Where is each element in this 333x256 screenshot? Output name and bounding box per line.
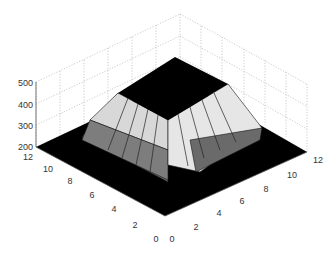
svg-text:12: 12 [313, 155, 323, 165]
svg-text:12: 12 [23, 152, 33, 162]
z-axis-ticks: 500 400 300 200 [18, 78, 33, 152]
svg-text:10: 10 [43, 164, 53, 174]
svg-text:6: 6 [89, 190, 94, 200]
svg-text:8: 8 [263, 184, 268, 194]
svg-text:2: 2 [132, 220, 137, 230]
surface-plot: 500 400 300 200 12 10 8 6 4 2 0 0 2 4 6 … [0, 0, 333, 256]
svg-text:10: 10 [287, 170, 297, 180]
svg-text:500: 500 [18, 78, 33, 88]
svg-text:8: 8 [67, 176, 72, 186]
svg-text:0: 0 [153, 234, 158, 244]
svg-text:400: 400 [18, 100, 33, 110]
svg-text:300: 300 [18, 121, 33, 131]
svg-text:4: 4 [111, 204, 116, 214]
svg-text:2: 2 [193, 222, 198, 232]
svg-text:6: 6 [239, 196, 244, 206]
svg-text:200: 200 [18, 142, 33, 152]
svg-text:0: 0 [169, 234, 174, 244]
svg-text:4: 4 [216, 208, 221, 218]
